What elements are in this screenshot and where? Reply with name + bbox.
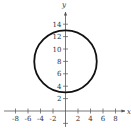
x-tick-label: -8	[12, 115, 19, 123]
y-tick-label: 8	[57, 58, 61, 66]
y-tick-label: 10	[53, 46, 62, 54]
y-axis-label: y	[61, 1, 67, 9]
x-axis-label: x	[127, 108, 131, 116]
x-tick-label: 4	[88, 115, 93, 123]
x-tick-label: 2	[76, 115, 80, 123]
x-tick-label: -6	[25, 115, 32, 123]
plot-area: -8-6-4-224682468101214 x y	[0, 0, 131, 134]
axes	[4, 12, 125, 127]
x-tick-label: 8	[113, 115, 117, 123]
x-tick-label: -2	[50, 115, 57, 123]
y-tick-label: 2	[57, 95, 61, 103]
y-tick-label: 14	[53, 21, 62, 29]
ticks: -8-6-4-224682468101214	[12, 21, 118, 124]
y-tick-label: 4	[57, 83, 62, 91]
x-tick-label: -4	[37, 115, 44, 123]
y-tick-label: 6	[57, 70, 62, 78]
x-tick-label: 6	[101, 115, 106, 123]
y-tick-label: 12	[53, 33, 62, 41]
